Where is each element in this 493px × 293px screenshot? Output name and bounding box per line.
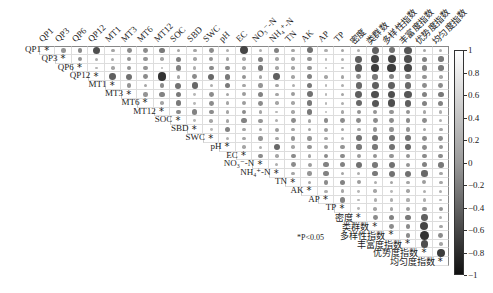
column-label: QP3 bbox=[53, 26, 71, 44]
colorbar bbox=[454, 50, 464, 275]
correlation-dot bbox=[406, 224, 411, 229]
correlation-dot bbox=[176, 100, 182, 106]
correlation-dot bbox=[389, 144, 395, 150]
correlation-dot bbox=[340, 154, 345, 159]
correlation-dot bbox=[422, 92, 427, 97]
correlation-dot bbox=[422, 136, 427, 141]
correlation-dot bbox=[373, 207, 377, 211]
correlation-dot bbox=[324, 180, 329, 185]
correlation-dot bbox=[241, 118, 246, 123]
correlation-dot bbox=[275, 57, 279, 61]
correlation-dot bbox=[373, 118, 378, 123]
correlation-dot bbox=[404, 91, 411, 98]
correlation-dot bbox=[341, 58, 344, 61]
correlation-dot bbox=[405, 82, 411, 88]
column-label: MT6 bbox=[135, 24, 155, 44]
correlation-dot bbox=[242, 145, 246, 149]
correlation-dot bbox=[259, 146, 262, 149]
row-label: pH bbox=[210, 141, 221, 151]
correlation-dot bbox=[372, 100, 379, 107]
correlation-dot bbox=[324, 128, 328, 132]
correlation-dot bbox=[357, 128, 361, 132]
correlation-dot bbox=[258, 154, 263, 159]
correlation-dot bbox=[325, 102, 328, 105]
correlation-dot bbox=[324, 75, 328, 79]
row-label: AP bbox=[308, 194, 320, 204]
correlation-dot bbox=[210, 128, 213, 131]
correlation-dot bbox=[176, 110, 181, 115]
correlation-matrix-chart: ************************* QP1QP3QP6QP12M… bbox=[0, 0, 493, 293]
correlation-dot bbox=[389, 110, 393, 114]
correlation-dot bbox=[423, 190, 426, 193]
row-label: QP12 bbox=[70, 70, 91, 80]
correlation-dot bbox=[422, 145, 427, 150]
correlation-dot bbox=[159, 48, 165, 54]
correlation-dot bbox=[258, 101, 263, 106]
correlation-dot bbox=[210, 84, 213, 87]
column-label: AK bbox=[299, 28, 315, 44]
correlation-dot bbox=[439, 207, 443, 211]
row-label: SWC bbox=[185, 132, 205, 142]
colorbar-tick-mark bbox=[464, 163, 467, 164]
correlation-dot bbox=[275, 128, 279, 132]
correlation-dot bbox=[439, 242, 443, 246]
correlation-dot bbox=[209, 66, 214, 71]
row-label: QP1 bbox=[25, 44, 41, 54]
correlation-dot bbox=[372, 162, 378, 168]
correlation-dot bbox=[291, 154, 296, 159]
correlation-dot bbox=[372, 74, 378, 80]
correlation-dot bbox=[420, 231, 429, 240]
correlation-dot bbox=[291, 110, 295, 114]
correlation-dot bbox=[143, 66, 147, 70]
correlation-dot bbox=[95, 58, 98, 61]
correlation-dot bbox=[341, 75, 345, 79]
colorbar-tick-label: −0.2 bbox=[468, 180, 484, 190]
correlation-dot bbox=[406, 233, 411, 238]
correlation-dot bbox=[405, 74, 410, 79]
diagonal-star-marker: * bbox=[438, 257, 443, 267]
correlation-dot bbox=[371, 91, 379, 99]
correlation-dot bbox=[61, 48, 65, 52]
correlation-dot bbox=[307, 136, 311, 140]
colorbar-tick-mark bbox=[464, 140, 467, 141]
colorbar-tick-mark bbox=[464, 185, 467, 186]
correlation-dot bbox=[143, 48, 148, 53]
correlation-dot bbox=[423, 198, 426, 201]
correlation-dot bbox=[438, 162, 444, 168]
colorbar-tick-label: 0.8 bbox=[468, 68, 479, 78]
correlation-dot bbox=[421, 214, 428, 221]
correlation-dot bbox=[356, 82, 362, 88]
correlation-dot bbox=[341, 102, 344, 105]
correlation-dot bbox=[356, 144, 362, 150]
correlation-dot bbox=[275, 66, 279, 70]
correlation-dot bbox=[390, 190, 393, 193]
correlation-dot bbox=[176, 65, 181, 70]
correlation-dot bbox=[258, 83, 262, 87]
significance-note: *P<0.05 bbox=[297, 233, 324, 242]
correlation-dot bbox=[258, 136, 262, 140]
correlation-dot bbox=[340, 197, 345, 202]
correlation-dot bbox=[355, 91, 362, 98]
column-label: EC bbox=[234, 29, 249, 44]
column-label: QP1 bbox=[37, 26, 55, 44]
correlation-dot bbox=[292, 84, 295, 87]
correlation-dot bbox=[373, 189, 377, 193]
colorbar-tick-label: 1 bbox=[468, 45, 473, 55]
correlation-dot bbox=[438, 233, 443, 238]
correlation-dot bbox=[275, 84, 279, 88]
correlation-dot bbox=[388, 82, 395, 89]
column-label: SBD bbox=[185, 25, 204, 44]
correlation-dot bbox=[323, 162, 328, 167]
correlation-dot bbox=[387, 64, 395, 72]
correlation-dot bbox=[438, 65, 444, 71]
correlation-dot bbox=[291, 49, 295, 53]
correlation-dot bbox=[388, 55, 396, 63]
correlation-dot bbox=[355, 56, 362, 63]
correlation-dot bbox=[193, 93, 196, 96]
correlation-dot bbox=[258, 119, 262, 123]
correlation-dot bbox=[439, 128, 443, 132]
correlation-dot bbox=[406, 207, 410, 211]
correlation-dot bbox=[438, 56, 444, 62]
correlation-dot bbox=[356, 162, 362, 168]
correlation-dot bbox=[209, 119, 213, 123]
